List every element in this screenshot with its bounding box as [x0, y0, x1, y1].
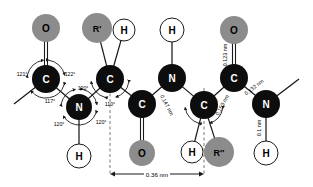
- atom-carbon: C: [190, 91, 218, 119]
- bond-single: [114, 40, 122, 67]
- repeat-distance-label: 0.36 nm: [146, 171, 168, 178]
- bond-length-label: 0.147 nm: [159, 94, 175, 117]
- atom-label: C: [138, 99, 145, 110]
- angle-label: 120°: [96, 119, 107, 125]
- atom-nitrogen: N: [66, 94, 92, 120]
- atom-label: C: [200, 100, 207, 111]
- angle-label: 120°: [78, 85, 89, 91]
- atom-carbon: C: [220, 64, 248, 92]
- atom-hydrogen: H: [254, 141, 278, 165]
- atom-label: C: [230, 73, 237, 84]
- bond-single: [208, 117, 215, 138]
- bond-single: [214, 87, 225, 97]
- bond-length-label: 0.123 nm: [222, 43, 228, 66]
- dimension-arrow-right: [199, 171, 204, 176]
- atom-nitrogen: N: [252, 90, 280, 118]
- repeat-dimension-layer: 0.36 nm: [110, 171, 204, 178]
- structure-canvas: OCNHR'HCCONHCHR″CONH 121°122°117°120°120…: [0, 0, 313, 187]
- atom-label: N: [168, 73, 175, 84]
- atom-carbon: C: [96, 65, 124, 93]
- atom-label: C: [106, 74, 113, 85]
- bond-single: [120, 87, 132, 96]
- bond-chain-continuation: [14, 87, 36, 104]
- atom-hydrogen: H: [160, 18, 184, 42]
- bond-single: [152, 87, 162, 96]
- dimension-arrow-left: [110, 171, 115, 176]
- atom-label: H: [120, 25, 127, 36]
- atom-label: O: [138, 148, 146, 159]
- angle-arc-layer: [27, 60, 222, 125]
- atom-hydrogen: H: [113, 19, 135, 41]
- atom-label: N: [262, 99, 269, 110]
- angle-label: 120°: [54, 121, 65, 127]
- atom-label: C: [42, 74, 49, 85]
- atom-layer: OCNHR'HCCONHCHR″CONH: [32, 13, 280, 168]
- atom-label: H: [75, 151, 82, 162]
- atom-rgroup: R': [82, 13, 112, 43]
- bond-single: [182, 86, 194, 96]
- atom-oxygen: O: [220, 16, 248, 44]
- atom-label: R″: [214, 148, 225, 158]
- angle-label: 121°: [17, 71, 28, 77]
- bond-chain-continuation: [276, 79, 299, 96]
- atom-label: O: [230, 25, 238, 36]
- atom-label: H: [262, 148, 269, 159]
- bond-single: [194, 118, 200, 143]
- atom-label: R': [93, 24, 102, 34]
- atom-label: H: [188, 147, 195, 158]
- atom-hydrogen: H: [181, 141, 203, 163]
- atom-label: N: [75, 102, 82, 113]
- atom-label: O: [42, 23, 50, 34]
- atom-carbon: C: [32, 65, 60, 93]
- atom-carbon: C: [128, 90, 156, 118]
- atom-label: H: [168, 25, 175, 36]
- atom-oxygen: O: [129, 140, 155, 166]
- angle-label: 110°: [105, 101, 115, 107]
- polypeptide-backbone-figure: OCNHR'HCCONHCHR″CONH 121°122°117°120°120…: [0, 0, 313, 187]
- angle-label: 122°: [65, 71, 76, 77]
- atom-oxygen: O: [32, 14, 60, 42]
- atom-nitrogen: N: [158, 64, 186, 92]
- bond-length-label: 0.1 nm: [256, 119, 262, 136]
- bond-single: [100, 42, 106, 67]
- atom-hydrogen: H: [67, 144, 91, 168]
- atom-rgroup: R″: [204, 137, 234, 167]
- angle-label: 117°: [45, 98, 55, 104]
